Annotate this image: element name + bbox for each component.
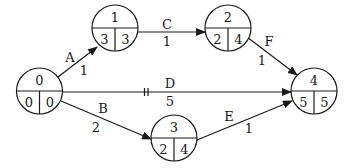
edge-b-duration: 2 (92, 120, 100, 135)
node-3: 3 2 4 (151, 115, 197, 161)
node-4-latest: 5 (320, 95, 328, 110)
edge-a: A 1 (58, 47, 97, 78)
node-2: 2 2 4 (205, 5, 251, 51)
edge-d-duration: 5 (166, 94, 174, 109)
network-diagram: A 1 B 2 C 1 D 5 E 1 F 1 0 0 0 (0, 0, 355, 168)
edge-f-activity: F (264, 34, 273, 49)
edge-a-activity: A (64, 50, 75, 65)
edge-e: E 1 (197, 101, 292, 140)
node-0-latest: 0 (46, 95, 54, 110)
edge-f: F 1 (247, 34, 297, 75)
edge-b-activity: B (98, 101, 108, 116)
node-2-earliest: 2 (213, 32, 221, 47)
node-2-latest: 4 (234, 32, 242, 47)
node-0-id: 0 (35, 73, 43, 88)
edge-a-duration: 1 (80, 63, 88, 78)
node-2-id: 2 (224, 10, 232, 25)
node-1-latest: 3 (121, 32, 129, 47)
node-3-id: 3 (170, 120, 178, 135)
node-0: 0 0 0 (17, 68, 63, 114)
edge-e-duration: 1 (245, 121, 253, 136)
edge-d: D 5 (63, 76, 291, 109)
node-3-latest: 4 (180, 142, 188, 157)
node-1: 1 3 3 (92, 5, 138, 51)
edge-c-duration: 1 (163, 34, 171, 49)
node-0-earliest: 0 (25, 95, 33, 110)
edge-d-activity: D (165, 76, 175, 91)
edge-f-duration: 1 (258, 53, 266, 68)
edge-c-activity: C (162, 17, 172, 32)
edge-c: C 1 (138, 17, 205, 49)
node-4-earliest: 5 (299, 95, 307, 110)
node-1-earliest: 3 (100, 32, 108, 47)
node-4-id: 4 (310, 73, 318, 88)
node-4: 4 5 5 (291, 68, 337, 114)
edge-b: B 2 (61, 101, 151, 139)
node-3-earliest: 2 (159, 142, 167, 157)
edge-e-activity: E (224, 109, 234, 124)
node-1-id: 1 (111, 10, 119, 25)
